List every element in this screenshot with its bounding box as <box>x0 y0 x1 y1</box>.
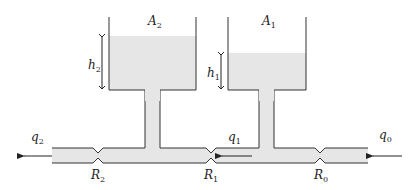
tank-2-level-label: h2 <box>88 58 101 74</box>
tank-1-level-label: h1 <box>207 66 220 82</box>
hydraulic-diagram: A2 h2 A1 h1 q2 q1 q0 R2 R1 R0 <box>0 0 416 190</box>
flow-q2-label: q2 <box>31 130 44 146</box>
resistance-r2-label: R2 <box>90 168 105 184</box>
flow-q0-label: q0 <box>379 128 392 144</box>
tank-2-area-label: A2 <box>147 14 162 30</box>
resistance-r0-label: R0 <box>313 168 328 184</box>
flow-q1-label: q1 <box>228 130 241 146</box>
main-pipe <box>52 90 368 163</box>
tank-1-liquid <box>228 53 306 90</box>
tank-1-area-label: A1 <box>261 14 276 30</box>
tank-2-liquid <box>109 36 196 90</box>
tank-1: A1 h1 <box>207 14 306 101</box>
resistance-r1-label: R1 <box>203 168 218 184</box>
tank-2: A2 h2 <box>88 14 196 101</box>
